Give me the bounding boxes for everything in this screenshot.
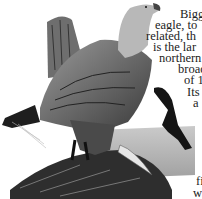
article-text: Bigg eagle, to related, th is the lar no… <box>0 0 202 199</box>
text-line: w <box>193 187 202 199</box>
text-line: a <box>193 97 199 109</box>
